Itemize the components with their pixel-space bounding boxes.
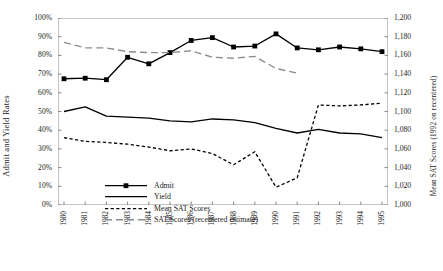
left-axis-tick: 60% xyxy=(22,89,52,97)
legend-label: SAT Scores (recentered estimate) xyxy=(154,214,258,225)
data-point xyxy=(189,38,194,43)
data-point xyxy=(210,35,215,40)
data-point xyxy=(316,47,321,52)
data-point xyxy=(146,61,151,66)
right-axis-tick: 1,140 xyxy=(394,70,428,78)
left-axis-tick: 10% xyxy=(22,182,52,190)
right-axis-tick: 1,120 xyxy=(394,89,428,97)
data-point xyxy=(104,77,109,82)
legend-item: Admit xyxy=(104,180,258,191)
data-point xyxy=(337,45,342,50)
data-point xyxy=(274,31,279,36)
right-axis-tick: 1,160 xyxy=(394,51,428,59)
legend-swatch-icon xyxy=(104,180,148,191)
legend-item: SAT Scores (recentered estimate) xyxy=(104,214,258,225)
legend-label: Admit xyxy=(154,180,174,191)
x-axis-tick: 1990 xyxy=(272,211,279,226)
right-axis-tick: 1,000 xyxy=(394,201,428,209)
x-axis-tick: 1991 xyxy=(293,211,300,226)
legend-swatch-icon xyxy=(104,191,148,202)
left-axis-tick: 50% xyxy=(22,108,52,116)
data-point xyxy=(358,46,363,51)
data-point xyxy=(83,76,88,81)
x-axis-tick: 1992 xyxy=(314,211,321,226)
right-axis-tick: 1,100 xyxy=(394,108,428,116)
data-point xyxy=(231,45,236,50)
legend-swatch-icon xyxy=(104,214,148,225)
data-point xyxy=(295,46,300,51)
right-axis-tick: 1,020 xyxy=(394,182,428,190)
data-point xyxy=(62,76,67,81)
x-axis-tick: 1994 xyxy=(357,211,364,226)
left-axis-tick: 0% xyxy=(22,201,52,209)
plot-area xyxy=(58,18,388,205)
legend-label: Mean SAT Scores xyxy=(154,203,210,214)
x-axis-tick: 1993 xyxy=(336,211,343,226)
chart-container: Admit and Yield Rates Mean SAT Scores (1… xyxy=(0,0,443,271)
legend-swatch-icon xyxy=(104,203,148,214)
left-axis-tick: 20% xyxy=(22,164,52,172)
right-axis-tick: 1,040 xyxy=(394,164,428,172)
right-axis-title: Mean SAT Scores (1992 on recentered) xyxy=(430,61,438,211)
left-axis-tick: 30% xyxy=(22,145,52,153)
data-point xyxy=(380,49,385,54)
x-axis-tick: 1981 xyxy=(81,211,88,226)
left-axis-tick: 40% xyxy=(22,126,52,134)
right-axis-tick: 1,180 xyxy=(394,33,428,41)
data-point xyxy=(252,44,257,49)
legend-item: Mean SAT Scores xyxy=(104,203,258,214)
data-point xyxy=(125,55,130,60)
right-axis-tick: 1,200 xyxy=(394,14,428,22)
left-axis-tick: 90% xyxy=(22,33,52,41)
series-canvas xyxy=(58,18,388,205)
left-axis-tick: 100% xyxy=(22,14,52,22)
left-axis-title: Admit and Yield Rates xyxy=(1,76,11,196)
legend-label: Yield xyxy=(154,191,171,202)
x-axis-tick: 1995 xyxy=(378,211,385,226)
left-axis-tick: 70% xyxy=(22,70,52,78)
x-axis-tick: 1980 xyxy=(60,211,67,226)
chart-legend: AdmitYieldMean SAT ScoresSAT Scores (rec… xyxy=(104,180,258,226)
right-axis-tick: 1,080 xyxy=(394,126,428,134)
right-axis-tick: 1,060 xyxy=(394,145,428,153)
left-axis-tick: 80% xyxy=(22,51,52,59)
legend-item: Yield xyxy=(104,191,258,202)
